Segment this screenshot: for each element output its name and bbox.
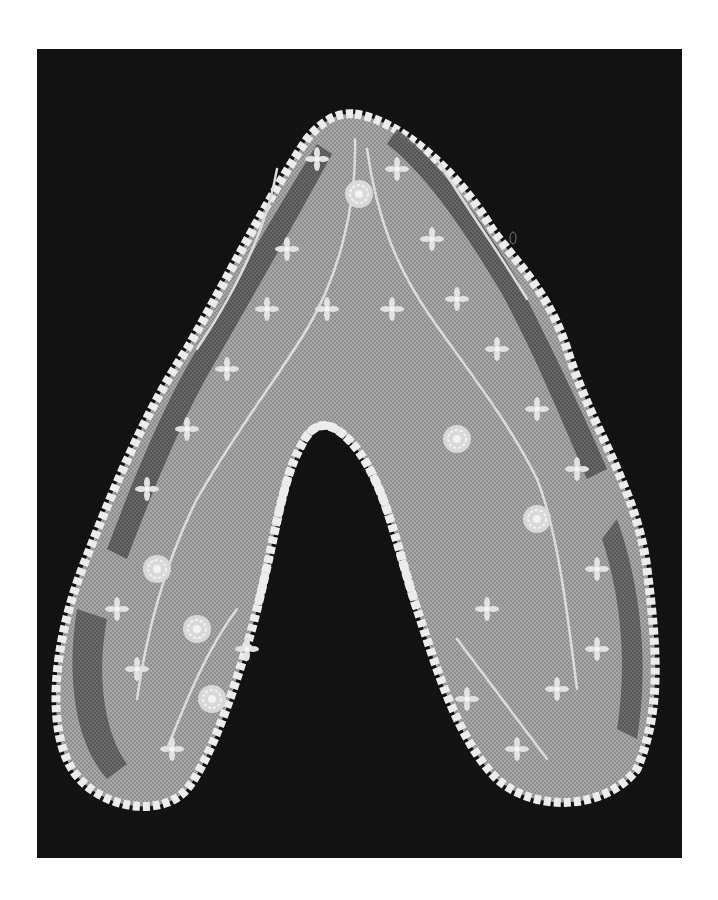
- photo-frame: [37, 49, 682, 858]
- lace-collar-photo: [37, 49, 682, 858]
